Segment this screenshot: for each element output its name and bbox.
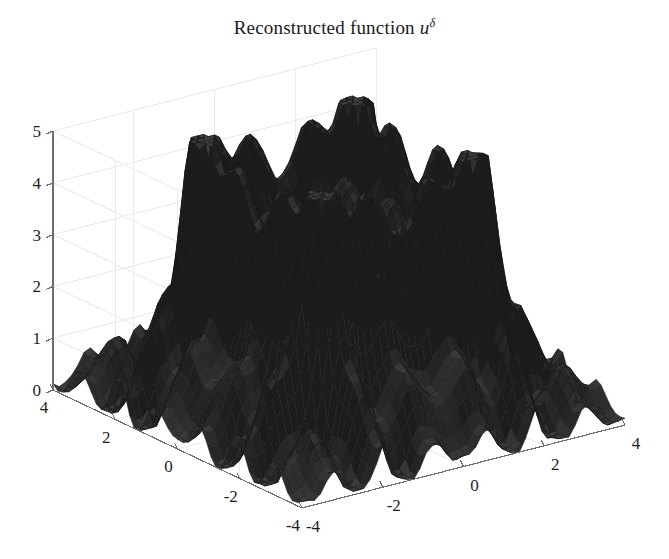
y-axis-tick-label: -4 [286, 517, 300, 534]
x-axis-tick-label: 2 [551, 455, 560, 472]
z-axis-tick-label: 1 [33, 330, 42, 347]
plot-canvas [0, 0, 669, 559]
x-axis-tick-label: 0 [470, 476, 479, 493]
x-axis-tick-label: -2 [387, 497, 401, 514]
z-axis-tick-label: 0 [33, 382, 42, 399]
y-axis-tick-label: 4 [40, 399, 49, 416]
y-axis-tick-label: 0 [164, 458, 173, 475]
z-axis-tick-label: 5 [33, 123, 42, 140]
z-axis-tick-label: 4 [33, 174, 42, 191]
x-axis-tick-label: -4 [306, 518, 320, 535]
y-axis-tick-label: -2 [224, 487, 238, 504]
surface-plot-figure: Reconstructed function uδ 012345420-2-4-… [0, 0, 669, 559]
x-axis-tick-label: 4 [632, 435, 641, 452]
y-axis-tick-label: 2 [102, 428, 111, 445]
z-axis-tick-label: 2 [33, 278, 42, 295]
z-axis-tick-label: 3 [33, 226, 42, 243]
surface-mesh [53, 96, 625, 502]
